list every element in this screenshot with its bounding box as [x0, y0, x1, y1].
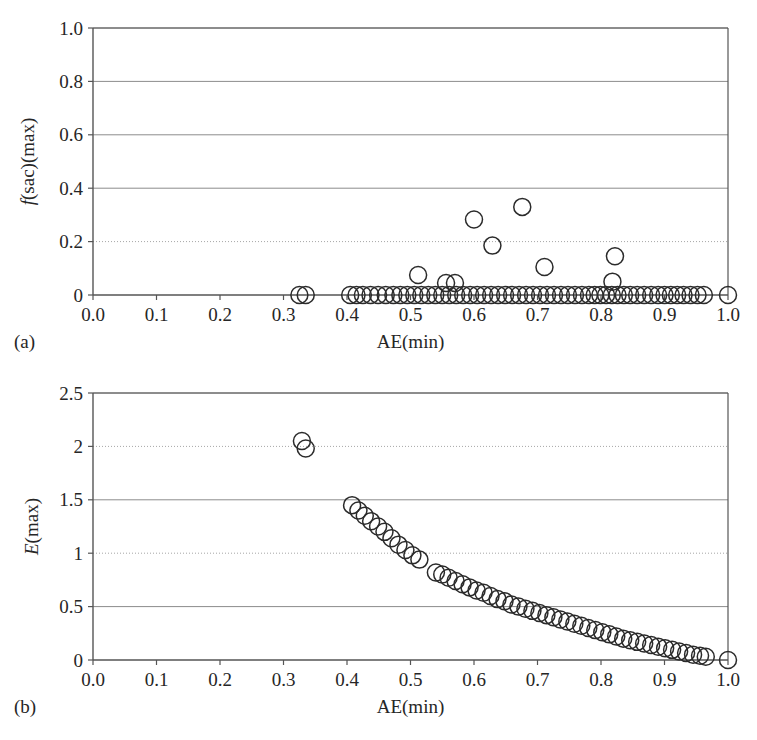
ytick-label: 2.5	[59, 383, 83, 404]
xtick-label: 0.6	[462, 304, 486, 325]
xtick-label: 0.6	[462, 669, 486, 690]
ytick-label: 0.4	[59, 178, 83, 199]
y-axis-title-suffix: (max)	[21, 498, 43, 543]
data-point-marker	[410, 266, 427, 283]
ytick-label: 0.8	[59, 71, 83, 92]
scatter-plot-b: 00.511.522.50.00.10.20.30.40.50.60.70.80…	[0, 370, 757, 740]
chart-panel-b: 00.511.522.50.00.10.20.30.40.50.60.70.80…	[0, 370, 757, 740]
xtick-label: 0.1	[145, 669, 169, 690]
xtick-label: 0.2	[208, 669, 232, 690]
xtick-label: 0.4	[335, 669, 359, 690]
panel-tag: (b)	[14, 696, 36, 718]
ytick-label: 0	[74, 650, 84, 671]
x-axis-title: AE(min)	[377, 331, 445, 353]
ytick-label: 1.5	[59, 489, 83, 510]
data-point-marker	[606, 248, 623, 265]
xtick-label: 0.2	[208, 304, 232, 325]
xtick-label: 0.0	[81, 669, 105, 690]
xtick-label: 0.7	[526, 304, 550, 325]
ytick-label: 1	[74, 543, 84, 564]
y-axis-title-symbol: E	[21, 543, 42, 556]
xtick-label: 0.7	[526, 669, 550, 690]
xtick-label: 0.3	[272, 669, 296, 690]
y-axis-title-text: f(sac)(max)	[17, 118, 39, 206]
data-point-marker	[466, 211, 483, 228]
xtick-label: 0.5	[399, 304, 423, 325]
data-point-marker	[383, 530, 400, 547]
xtick-label: 0.8	[589, 304, 613, 325]
xtick-label: 0.4	[335, 304, 359, 325]
y-axis-title: E(max)	[21, 498, 43, 556]
chart-panel-a: 00.20.40.60.81.00.00.10.20.30.40.50.60.7…	[0, 0, 757, 370]
ytick-label: 0.5	[59, 596, 83, 617]
data-point-marker	[536, 258, 553, 275]
xtick-label: 1.0	[716, 669, 740, 690]
scatter-plot-a: 00.20.40.60.81.00.00.10.20.30.40.50.60.7…	[0, 0, 757, 370]
xtick-label: 0.0	[81, 304, 105, 325]
xtick-label: 0.8	[589, 669, 613, 690]
panel-tag: (a)	[14, 331, 35, 353]
data-point-marker	[484, 237, 501, 254]
xtick-label: 1.0	[716, 304, 740, 325]
ytick-label: 1.0	[59, 18, 83, 39]
y-axis-title-suffix: (sac)(max)	[17, 118, 39, 200]
y-axis-title: f(sac)(max)	[17, 118, 39, 206]
xtick-label: 0.5	[399, 669, 423, 690]
ytick-label: 0.6	[59, 124, 83, 145]
ytick-label: 0	[74, 285, 84, 306]
ytick-label: 2	[74, 436, 84, 457]
figure-two-scatter-panels: 00.20.40.60.81.00.00.10.20.30.40.50.60.7…	[0, 0, 757, 740]
x-axis-title: AE(min)	[377, 696, 445, 718]
ytick-label: 0.2	[59, 231, 83, 252]
xtick-label: 0.3	[272, 304, 296, 325]
y-axis-title-text: E(max)	[21, 498, 43, 556]
xtick-label: 0.9	[653, 669, 677, 690]
xtick-label: 0.1	[145, 304, 169, 325]
data-point-marker	[514, 198, 531, 215]
xtick-label: 0.9	[653, 304, 677, 325]
